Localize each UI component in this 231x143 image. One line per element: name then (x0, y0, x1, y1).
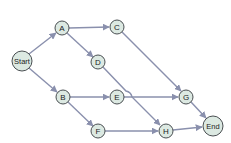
edge-a-d (67, 33, 93, 57)
node-label: F (96, 127, 101, 136)
node-d[interactable]: D (91, 55, 105, 69)
edge-h-end (173, 127, 202, 130)
edge-start-a (29, 33, 56, 54)
edge-a-c (69, 27, 109, 28)
network-diagram: Start A C D B E F G H End (0, 0, 231, 143)
node-g[interactable]: G (179, 90, 193, 104)
node-label: Start (14, 57, 31, 66)
node-label: C (114, 23, 120, 32)
edge-start-b (29, 68, 57, 92)
edge-g-end (191, 102, 206, 118)
node-label: A (59, 24, 65, 33)
node-label: E (114, 93, 119, 102)
node-label: D (95, 58, 101, 67)
node-b[interactable]: B (56, 90, 70, 104)
node-label: End (206, 122, 219, 131)
node-label: G (183, 93, 189, 102)
node-label: H (163, 127, 169, 136)
node-h[interactable]: H (159, 124, 173, 138)
node-label: B (60, 93, 65, 102)
node-start[interactable]: Start (12, 51, 32, 71)
node-a[interactable]: A (55, 21, 69, 35)
node-end[interactable]: End (203, 116, 223, 136)
edge-b-f (68, 102, 93, 126)
node-c[interactable]: C (110, 20, 124, 34)
node-e[interactable]: E (110, 90, 124, 104)
edge-c-g (122, 32, 181, 91)
node-f[interactable]: F (91, 124, 105, 138)
